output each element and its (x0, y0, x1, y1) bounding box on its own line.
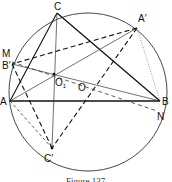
label-C: C (54, 1, 61, 12)
label-O1: O1 (55, 77, 67, 89)
dashed-A-prime-B-prime (12, 28, 137, 64)
label-M: M (2, 48, 10, 59)
point-C-prime (51, 147, 54, 150)
figure-caption: Figure 137 (66, 176, 106, 182)
label-O: O (78, 82, 86, 93)
dotted-A-prime-B (137, 28, 160, 101)
label-A: A (0, 96, 7, 107)
label-A-prime: A′ (138, 13, 147, 24)
circumcircle (9, 13, 167, 171)
label-N: N (157, 111, 164, 122)
label-B-prime: B′ (2, 60, 11, 71)
label-C-prime: C′ (44, 153, 53, 164)
point-O1 (53, 73, 56, 76)
label-B: B (162, 96, 169, 107)
dashed-B-prime-C-prime (12, 64, 52, 148)
geometry-figure: C A′ M B′ A B N C′ O1 O Figure 137 (0, 0, 172, 182)
